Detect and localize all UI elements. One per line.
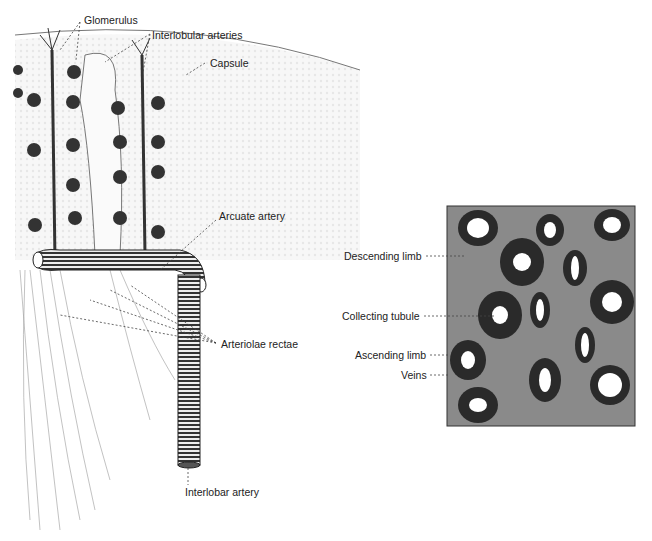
interlobar-artery (178, 275, 200, 468)
label-interlobular-arteries: Interlobular arteries (152, 29, 242, 41)
medulla-rays (20, 270, 175, 530)
label-arteriolae-rectae: Arteriolae rectae (221, 338, 298, 350)
label-arcuate-artery: Arcuate artery (219, 210, 285, 222)
label-glomerulus: Glomerulus (84, 14, 138, 26)
label-descending-limb: Descending limb (344, 250, 422, 262)
label-collecting-tubule: Collecting tubule (342, 310, 420, 322)
label-veins: Veins (401, 369, 427, 381)
label-ascending-limb: Ascending limb (355, 349, 426, 361)
label-capsule: Capsule (210, 57, 249, 69)
label-interlobar-artery: Interlobar artery (185, 486, 259, 498)
histology-section (447, 206, 635, 426)
kidney-vasculature-illustration (0, 0, 652, 541)
